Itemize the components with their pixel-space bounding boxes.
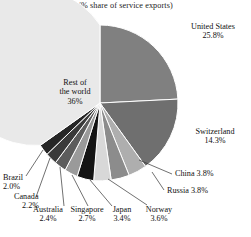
label-switzerland-name: Switzerland — [184, 127, 246, 136]
label-norway-value: 3.6% — [140, 214, 178, 223]
label-japan-name: Japan — [106, 205, 138, 214]
label-canada: Canada 2.2% — [14, 192, 39, 211]
label-rest-of-the-world-line1: Rest of — [40, 78, 110, 87]
label-norway-name: Norway — [140, 205, 178, 214]
label-australia-value: 2.4% — [27, 214, 69, 223]
leader-line-norway — [108, 179, 147, 205]
label-rest-of-the-world-line2: the world — [40, 87, 110, 96]
label-brazil: Brazil 2.0% — [3, 173, 23, 192]
label-china-value: 3.8% — [197, 169, 214, 178]
label-norway: Norway 3.6% — [140, 205, 178, 224]
slice-united-states[interactable] — [100, 25, 178, 103]
label-russia-value: 3.8% — [191, 186, 208, 195]
label-rest-of-the-world-value: 36% — [40, 97, 110, 106]
label-united-states: United States 25.8% — [178, 22, 248, 41]
leader-line-australia — [60, 167, 64, 206]
label-singapore-name: Singapore — [66, 205, 108, 214]
label-china: China 3.8% — [175, 169, 214, 178]
label-canada-value: 2.2% — [22, 201, 39, 210]
label-canada-name: Canada — [14, 192, 39, 201]
label-rest-of-the-world: Rest of the world 36% — [40, 78, 110, 106]
leader-line-brazil — [26, 150, 43, 176]
label-singapore: Singapore 2.7% — [66, 205, 108, 224]
label-china-name: China — [175, 169, 195, 178]
label-united-states-value: 25.8% — [178, 31, 248, 40]
label-united-states-name: United States — [178, 22, 248, 31]
label-japan-value: 3.4% — [106, 214, 138, 223]
leader-line-russia — [152, 172, 164, 190]
label-brazil-name: Brazil — [3, 173, 23, 182]
label-japan: Japan 3.4% — [106, 205, 138, 224]
leader-line-japan — [90, 180, 112, 206]
label-brazil-value: 2.0% — [3, 182, 23, 191]
label-singapore-value: 2.7% — [66, 214, 108, 223]
label-switzerland: Switzerland 14.3% — [184, 127, 246, 146]
label-russia: Russia 3.8% — [167, 186, 208, 195]
label-switzerland-value: 14.3% — [184, 136, 246, 145]
pie-chart-figure: (% share of service exports) — [0, 0, 251, 237]
label-russia-name: Russia — [167, 186, 189, 195]
